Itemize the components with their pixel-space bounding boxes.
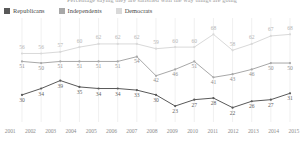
legend-label-republicans: Republicans — [13, 7, 45, 15]
legend-item-democrats[interactable]: Democrats — [116, 7, 153, 15]
data-label-democrats: 56 — [19, 44, 25, 50]
data-label-independents: 51 — [57, 63, 63, 69]
data-point-republicans — [251, 100, 253, 102]
data-point-republicans — [155, 94, 157, 96]
x-axis-tick-labels: 2001200220032004200520062007200820092010… — [0, 126, 304, 140]
data-point-republicans — [174, 105, 176, 107]
data-point-republicans — [78, 86, 80, 88]
x-axis-tick: 2009 — [162, 126, 182, 140]
data-point-republicans — [193, 99, 195, 101]
data-label-republicans: 35 — [77, 89, 83, 95]
line-chart-svg: 5656576062626259606068586267685150515151… — [0, 18, 304, 122]
data-label-democrats: 57 — [57, 42, 63, 48]
data-point-democrats — [193, 46, 195, 48]
x-axis-tick: 2013 — [243, 126, 263, 140]
data-point-democrats — [251, 43, 253, 45]
legend-item-republicans[interactable]: Republicans — [4, 7, 45, 15]
chart-legend: Republicans Independents Democrats — [4, 6, 152, 16]
data-point-democrats — [289, 33, 291, 35]
data-point-republicans — [136, 89, 138, 91]
data-label-independents: 54 — [134, 58, 140, 64]
data-label-republicans: 27 — [268, 102, 274, 108]
data-point-democrats — [117, 43, 119, 45]
data-label-republicans: 34 — [115, 91, 121, 97]
data-label-independents: 50 — [38, 65, 44, 71]
data-point-republicans — [21, 94, 23, 96]
data-label-republicans: 27 — [191, 102, 197, 108]
data-point-democrats — [155, 48, 157, 50]
data-point-republicans — [117, 87, 119, 89]
data-point-republicans — [40, 87, 42, 89]
legend-item-independents[interactable]: Independents — [59, 7, 102, 15]
data-label-independents: 51 — [191, 63, 197, 69]
data-point-democrats — [270, 35, 272, 37]
data-label-independents: 46 — [249, 71, 255, 77]
data-label-democrats: 62 — [96, 34, 102, 40]
data-point-democrats — [97, 43, 99, 45]
chart-title-text: Percentage saying they are satisfied wit… — [0, 0, 304, 4]
data-label-democrats: 60 — [191, 38, 197, 44]
data-label-independents: 51 — [77, 63, 83, 69]
x-axis-tick: 2001 — [0, 126, 20, 140]
data-label-republicans: 39 — [57, 83, 63, 89]
data-label-democrats: 68 — [211, 25, 217, 31]
x-axis-tick: 2002 — [20, 126, 40, 140]
data-label-republicans: 28 — [211, 100, 217, 106]
data-point-democrats — [136, 43, 138, 45]
data-label-independents: 46 — [172, 71, 178, 77]
x-axis-tick: 2014 — [263, 126, 283, 140]
x-axis-tick: 2015 — [284, 126, 304, 140]
data-label-democrats: 60 — [77, 38, 83, 44]
data-label-republicans: 30 — [19, 97, 25, 103]
data-point-republicans — [231, 107, 233, 109]
data-label-democrats: 62 — [134, 34, 140, 40]
data-label-republicans: 33 — [134, 92, 140, 98]
data-label-independents: 43 — [230, 76, 236, 82]
legend-label-democrats: Democrats — [125, 7, 153, 15]
x-axis-tick: 2008 — [142, 126, 162, 140]
data-label-democrats: 62 — [249, 34, 255, 40]
data-label-democrats: 67 — [268, 26, 274, 32]
chart-title-clipped: Percentage saying they are satisfied wit… — [0, 0, 304, 4]
data-label-republicans: 26 — [249, 103, 255, 109]
data-label-democrats: 59 — [153, 39, 159, 45]
data-label-republicans: 23 — [172, 108, 178, 114]
data-label-republicans: 22 — [230, 110, 236, 116]
x-axis-tick: 2011 — [203, 126, 223, 140]
x-axis-tick: 2007 — [122, 126, 142, 140]
data-point-democrats — [212, 33, 214, 35]
data-point-democrats — [231, 49, 233, 51]
x-axis-tick: 2006 — [101, 126, 121, 140]
x-axis-tick: 2012 — [223, 126, 243, 140]
data-point-democrats — [59, 51, 61, 53]
x-axis-tick: 2005 — [81, 126, 101, 140]
data-point-democrats — [174, 46, 176, 48]
data-label-independents: 50 — [268, 65, 274, 71]
data-label-republicans: 34 — [38, 91, 44, 97]
data-label-independents: 50 — [287, 65, 293, 71]
data-label-independents: 42 — [153, 77, 159, 83]
data-label-independents: 41 — [211, 79, 217, 85]
data-label-republicans: 31 — [287, 95, 293, 101]
data-point-republicans — [289, 92, 291, 94]
data-point-republicans — [270, 99, 272, 101]
data-point-democrats — [78, 46, 80, 48]
legend-swatch-republicans — [4, 8, 10, 14]
plot-area: 5656576062626259606068586267685150515151… — [0, 18, 304, 122]
data-point-republicans — [212, 97, 214, 99]
data-label-democrats: 58 — [230, 41, 236, 47]
x-axis-tick: 2010 — [182, 126, 202, 140]
data-label-democrats: 60 — [172, 38, 178, 44]
data-label-independents: 51 — [96, 63, 102, 69]
data-label-republicans: 34 — [96, 91, 102, 97]
data-point-republicans — [59, 79, 61, 81]
data-point-democrats — [21, 52, 23, 54]
data-point-republicans — [97, 87, 99, 89]
data-point-democrats — [40, 52, 42, 54]
data-label-democrats: 62 — [115, 34, 121, 40]
data-label-independents: 51 — [115, 63, 121, 69]
legend-swatch-independents — [59, 8, 65, 14]
x-axis-tick: 2003 — [41, 126, 61, 140]
data-label-independents: 51 — [19, 63, 25, 69]
data-label-democrats: 68 — [287, 25, 293, 31]
